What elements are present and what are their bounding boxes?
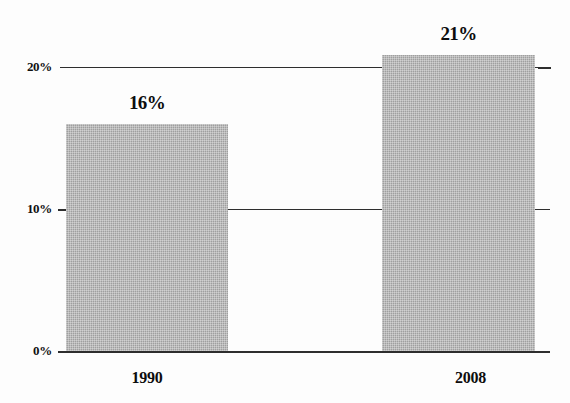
x-axis-baseline [60,351,550,353]
y-tick-label-10: 10% [0,201,52,217]
y-tick-label-0: 0% [0,343,52,359]
value-label-1990: 16% [67,92,227,114]
value-label-2008: 21% [382,23,535,45]
plot-area: 20% 10% 0% 16% 21% 1990 2008 [0,0,570,403]
category-label-2008: 2008 [394,369,547,387]
y-tick-label-20: 20% [0,59,52,75]
y-tick-mark-20-right [538,67,551,69]
bar-1990[interactable] [66,124,228,351]
bar-chart: 20% 10% 0% 16% 21% 1990 2008 [0,0,570,403]
y-tick-mark-0 [58,351,68,353]
category-label-1990: 1990 [67,369,227,387]
bar-2008[interactable] [382,55,535,351]
